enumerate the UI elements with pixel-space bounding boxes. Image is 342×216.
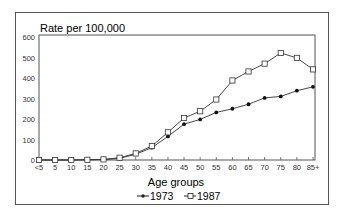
data-point-1987: [101, 157, 106, 162]
data-point-1987: [36, 157, 41, 162]
data-point-1987: [133, 151, 138, 156]
x-tick-label: 35: [148, 163, 156, 172]
data-point-1987: [246, 69, 251, 74]
legend-item-1987: 1987: [184, 190, 221, 202]
data-point-1987: [181, 115, 186, 120]
data-point-1987: [230, 78, 235, 83]
series-line-1987: [39, 53, 313, 160]
line-chart: Rate per 100,000 0100200300400500600<551…: [0, 0, 342, 216]
x-tick-label: 5: [53, 163, 57, 172]
x-tick-label: <5: [35, 163, 44, 172]
data-point-1973: [214, 111, 218, 115]
x-tick-label: 30: [132, 163, 140, 172]
series-group: [36, 50, 315, 162]
y-tick-label: 500: [22, 54, 35, 63]
x-tick-label: 85+: [307, 163, 320, 172]
data-point-1987: [278, 50, 283, 55]
x-tick-label: 60: [228, 163, 236, 172]
data-point-1987: [310, 67, 315, 72]
x-tick-label: 70: [260, 163, 268, 172]
data-point-1973: [311, 85, 315, 89]
x-tick-label: 40: [164, 163, 172, 172]
data-point-1987: [214, 97, 219, 102]
data-point-1973: [231, 107, 235, 111]
y-tick-label: 300: [22, 95, 35, 104]
data-point-1987: [149, 143, 154, 148]
x-tick-label: 75: [277, 163, 285, 172]
x-tick-label: 80: [293, 163, 301, 172]
x-tick-label: 25: [115, 163, 123, 172]
x-tick-label: 55: [212, 163, 220, 172]
data-point-1987: [69, 157, 74, 162]
data-point-1973: [182, 122, 186, 126]
filled-circle-marker-icon: [141, 194, 145, 198]
data-point-1973: [198, 118, 202, 122]
y-axis-title: Rate per 100,000: [40, 22, 125, 34]
x-tick-label: 45: [180, 163, 188, 172]
data-point-1973: [279, 95, 283, 99]
axes: 0100200300400500600<55101520253035404550…: [22, 33, 319, 172]
data-point-1987: [117, 155, 122, 160]
x-axis-title: Age groups: [148, 176, 205, 188]
data-point-1987: [53, 157, 58, 162]
data-point-1987: [165, 130, 170, 135]
x-tick-label: 15: [83, 163, 91, 172]
data-point-1973: [263, 96, 267, 100]
data-point-1973: [247, 102, 251, 106]
series-line-1973: [39, 87, 313, 160]
y-tick-label: 400: [22, 74, 35, 83]
data-point-1973: [295, 89, 299, 93]
y-tick-label: 200: [22, 115, 35, 124]
y-tick-label: 100: [22, 136, 35, 145]
legend: 1973 1987: [137, 190, 221, 202]
x-tick-label: 20: [99, 163, 107, 172]
y-tick-label: 600: [22, 33, 35, 42]
open-square-marker-icon: [188, 194, 193, 199]
data-point-1987: [198, 109, 203, 114]
legend-label-1987: 1987: [197, 190, 221, 202]
legend-label-1973: 1973: [150, 190, 174, 202]
legend-item-1973: 1973: [137, 190, 174, 202]
data-point-1987: [85, 157, 90, 162]
x-tick-label: 50: [196, 163, 204, 172]
x-tick-label: 10: [67, 163, 75, 172]
data-point-1987: [294, 55, 299, 60]
data-point-1987: [262, 61, 267, 66]
x-tick-label: 65: [244, 163, 252, 172]
